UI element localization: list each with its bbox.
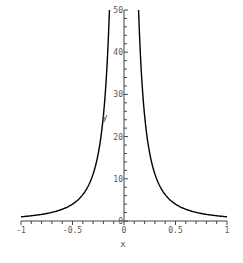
- x-tick-label: 1: [225, 226, 230, 235]
- y-tick-label: 50: [113, 6, 123, 15]
- curve-segment: [139, 10, 227, 217]
- y-axis: 01020304050: [113, 6, 128, 226]
- x-axis-label: x: [120, 239, 126, 249]
- y-tick-label: 10: [113, 175, 123, 184]
- curve-segment: [21, 10, 109, 217]
- x-tick-label: 0: [122, 226, 127, 235]
- y-axis-label: y: [102, 112, 108, 122]
- y-tick-label: 0: [118, 217, 123, 226]
- x-tick-label: 0.5: [168, 226, 183, 235]
- x-tick-label: -1: [16, 226, 26, 235]
- y-tick-label: 30: [113, 90, 123, 99]
- y-tick-label: 40: [113, 48, 123, 57]
- plot-area: -1-0.500.51 01020304050 x y: [0, 0, 243, 263]
- y-tick-label: 20: [113, 133, 123, 142]
- x-tick-label: -0.5: [63, 226, 82, 235]
